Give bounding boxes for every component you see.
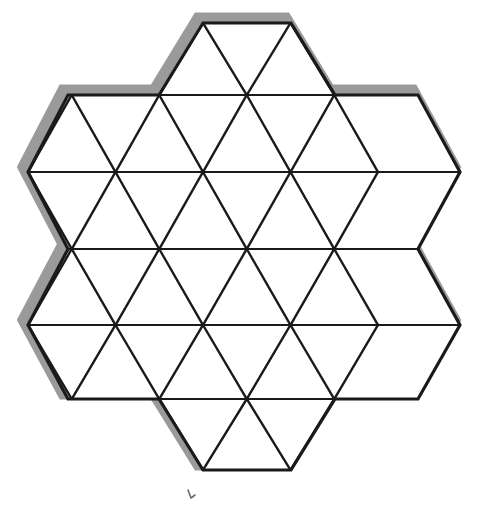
tessellation-figure (0, 0, 488, 507)
figure-root (0, 0, 488, 507)
bottom-tick-mark (188, 490, 195, 498)
